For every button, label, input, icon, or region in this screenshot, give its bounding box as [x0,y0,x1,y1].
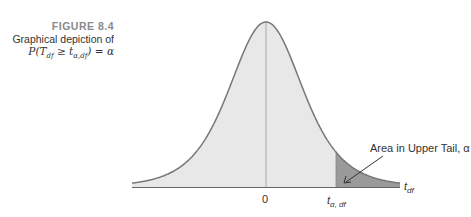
tail-annotation: Area in Upper Tail, α [370,142,470,154]
tick-zero: 0 [262,193,268,205]
tick-t-alpha: tα, df [327,194,347,209]
x-axis-label: tdf [404,180,415,195]
t-distribution-chart: 0 tα, df tdf Area in Upper Tail, α [0,0,471,217]
